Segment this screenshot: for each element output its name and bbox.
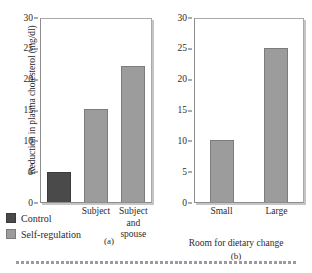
y-tick-mark-b-10 xyxy=(188,141,192,142)
x-tick-labels-panel-b: Small Large xyxy=(194,206,304,218)
y-tick-label-20: 20 xyxy=(11,73,33,86)
y-tick-mark-10 xyxy=(34,141,38,142)
y-tick-label-b-30: 30 xyxy=(165,11,187,24)
legend-item-self-regulation: Self-regulation xyxy=(6,227,136,241)
legend-item-control: Control xyxy=(6,211,136,225)
y-tick-mark-5 xyxy=(34,172,38,173)
y-tick-label-b-10: 10 xyxy=(165,134,187,147)
y-tick-label-b-20: 20 xyxy=(165,73,187,86)
legend: Control Self-regulation xyxy=(6,211,136,243)
y-tick-label-0: 0 xyxy=(11,196,33,209)
bar-subject xyxy=(84,109,108,202)
decorative-dotted-rule xyxy=(16,261,297,264)
y-tick-mark-15 xyxy=(34,110,38,111)
y-tick-mark-b-15 xyxy=(188,110,192,111)
bar-large xyxy=(264,48,288,202)
y-tick-mark-b-25 xyxy=(188,48,192,49)
legend-label-self-regulation: Self-regulation xyxy=(21,229,81,240)
legend-swatch-self-regulation xyxy=(6,229,16,239)
x-label-large: Large xyxy=(255,206,299,218)
legend-label-control: Control xyxy=(21,213,52,224)
bar-subject-and-spouse xyxy=(121,66,145,202)
y-tick-label-25: 25 xyxy=(11,42,33,55)
panel-letter-b: (b) xyxy=(160,251,312,261)
panel-a: Reduction in plasma cholesterol (mg/dl) … xyxy=(0,0,160,250)
bars-panel-a xyxy=(41,19,151,202)
y-tick-label-30: 30 xyxy=(11,11,33,24)
plot-area-panel-b xyxy=(194,18,304,203)
y-tick-mark-b-30 xyxy=(188,18,192,19)
bar-small xyxy=(210,140,234,202)
y-tick-label-10: 10 xyxy=(11,134,33,147)
bars-panel-b xyxy=(195,19,303,202)
panels-container: Reduction in plasma cholesterol (mg/dl) … xyxy=(0,0,312,250)
y-tick-mark-30 xyxy=(34,18,38,19)
y-tick-mark-0 xyxy=(34,203,38,204)
y-tick-label-b-5: 5 xyxy=(165,165,187,178)
y-tick-label-15: 15 xyxy=(11,104,33,117)
y-axis-panel-b: 30 25 20 15 10 xyxy=(166,18,192,203)
y-tick-mark-20 xyxy=(34,79,38,80)
y-tick-mark-b-20 xyxy=(188,79,192,80)
y-tick-mark-25 xyxy=(34,48,38,49)
y-tick-label-b-15: 15 xyxy=(165,104,187,117)
y-tick-label-5: 5 xyxy=(11,165,33,178)
y-tick-mark-b-0 xyxy=(188,203,192,204)
y-tick-label-b-0: 0 xyxy=(165,196,187,209)
legend-swatch-control xyxy=(6,213,16,223)
x-axis-title-panel-b: Room for dietary change xyxy=(160,238,312,248)
plot-area-panel-a xyxy=(40,18,152,203)
panel-b: 30 25 20 15 10 xyxy=(160,0,312,250)
y-tick-mark-b-5 xyxy=(188,172,192,173)
y-tick-label-b-25: 25 xyxy=(165,42,187,55)
figure-bar-chart-cholesterol: Reduction in plasma cholesterol (mg/dl) … xyxy=(0,0,312,273)
y-axis-panel-a: 30 25 20 15 10 xyxy=(12,18,38,203)
x-label-small: Small xyxy=(200,206,244,218)
bar-control xyxy=(47,172,71,203)
